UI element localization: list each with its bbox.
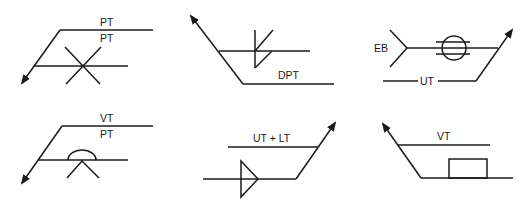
- arrow-line: [191, 16, 243, 84]
- symbol-5: UT + LT: [203, 123, 335, 197]
- label-bottom: DPT: [278, 69, 300, 81]
- symbol-3: EB UT: [374, 30, 512, 87]
- label-top: UT + LT: [253, 132, 291, 144]
- v-weld-icon: [67, 161, 99, 178]
- arrow-line: [22, 126, 62, 183]
- symbol-6: VT: [383, 124, 513, 178]
- label-top: VT: [437, 130, 451, 142]
- arrow-line: [22, 30, 60, 83]
- rectangle-weld-icon: [449, 159, 487, 178]
- arrow-line: [296, 123, 335, 179]
- tail-icon: [390, 30, 407, 48]
- label-top: VT: [100, 112, 114, 124]
- tail-icon: [390, 48, 407, 67]
- arrow-line: [476, 30, 512, 81]
- symbol-1: PT PT: [22, 16, 153, 84]
- bevel-weld-icon: [255, 51, 272, 68]
- convex-contour-icon: [68, 150, 96, 160]
- label-bottom: UT: [420, 75, 435, 87]
- bevel-weld-icon: [255, 30, 273, 51]
- welding-symbols-figure: PT PT DPT EB UT VT PT: [0, 0, 529, 208]
- symbol-4: VT PT: [22, 112, 153, 183]
- label-top: PT: [100, 16, 114, 28]
- label-tail: EB: [374, 42, 388, 54]
- symbol-2: DPT: [191, 16, 334, 84]
- label-bottom: PT: [100, 128, 114, 140]
- arrow-line: [383, 124, 421, 178]
- label-bottom: PT: [100, 32, 114, 44]
